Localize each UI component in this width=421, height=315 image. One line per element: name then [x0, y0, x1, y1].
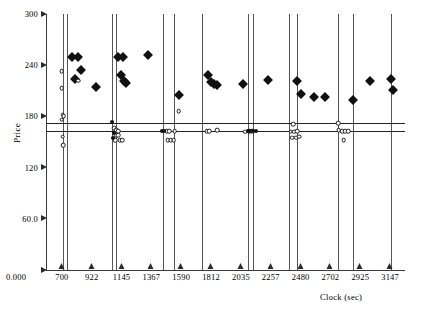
x-tick-label-1145: 1145: [113, 272, 131, 282]
data-point-series-1: [76, 78, 81, 83]
data-point-series-0: [174, 90, 184, 100]
y-axis-tick-mark: [41, 164, 47, 170]
x-axis-tick-mark: [148, 263, 154, 269]
x-axis-tick-mark: [267, 263, 273, 269]
data-point-series-1: [215, 128, 220, 133]
x-axis-title: Clock (sec): [320, 292, 362, 302]
x-tick-label-1590: 1590: [172, 272, 190, 282]
data-point-series-0: [238, 79, 248, 89]
y-axis-tick-mark: [41, 62, 47, 68]
data-point-series-2: [112, 131, 116, 135]
x-axis-tick-mark: [118, 263, 124, 269]
y-tick-label-180: 180: [25, 111, 38, 121]
data-point-series-1: [60, 135, 65, 140]
vertical-event-line: [248, 14, 249, 270]
x-tick-label-2480: 2480: [292, 272, 310, 282]
x-tick-label-2925: 2925: [351, 272, 369, 282]
data-point-series-0: [292, 76, 302, 86]
x-axis-tick-mark: [387, 263, 393, 269]
data-point-series-0: [348, 95, 358, 105]
data-point-series-0: [388, 85, 398, 95]
vertical-event-line: [63, 14, 64, 270]
x-tick-label-700: 700: [55, 272, 68, 282]
y-axis-tick-mark: [41, 215, 47, 221]
vertical-event-line: [353, 14, 354, 270]
data-point-series-2: [162, 129, 166, 133]
vertical-event-line: [163, 14, 164, 270]
data-point-series-1: [291, 122, 296, 127]
x-axis-tick-mark: [297, 263, 303, 269]
horizontal-reference-line: [47, 131, 405, 132]
x-tick-label-2257: 2257: [262, 272, 280, 282]
vertical-event-line: [253, 14, 254, 270]
x-tick-label-1367: 1367: [142, 272, 160, 282]
y-tick-label-60: 60.0: [22, 214, 38, 224]
data-point-series-1: [346, 129, 351, 134]
y-tick-label-0: 0.000: [6, 272, 26, 282]
data-point-series-1: [341, 138, 346, 143]
data-point-series-0: [365, 76, 375, 86]
data-point-series-0: [320, 92, 330, 102]
x-tick-label-1812: 1812: [202, 272, 220, 282]
data-point-series-0: [73, 52, 83, 62]
vertical-event-line: [67, 14, 68, 270]
data-point-series-1: [60, 86, 65, 91]
y-tick-label-120: 120: [25, 163, 38, 173]
data-point-series-1: [172, 129, 177, 134]
x-axis-tick-mark: [178, 263, 184, 269]
y-axis-title: Price: [12, 103, 22, 163]
y-axis-line: [46, 14, 47, 271]
data-point-series-1: [336, 121, 341, 126]
data-point-series-1: [60, 69, 65, 74]
data-point-series-0: [91, 82, 101, 92]
data-point-series-0: [309, 92, 319, 102]
y-axis-tick-mark: [41, 11, 47, 17]
x-axis-line: [46, 270, 405, 271]
x-axis-tick-mark: [88, 263, 94, 269]
data-point-series-1: [120, 138, 125, 143]
vertical-event-line: [391, 14, 392, 270]
x-tick-label-2702: 2702: [322, 272, 340, 282]
x-axis-tick-mark: [327, 263, 333, 269]
vertical-event-line: [202, 14, 203, 270]
data-point-series-1: [297, 135, 302, 140]
data-point-series-1: [176, 109, 181, 114]
x-tick-label-2035: 2035: [232, 272, 250, 282]
data-point-series-2: [111, 136, 115, 140]
data-point-series-0: [143, 50, 153, 60]
data-point-series-1: [60, 118, 65, 123]
data-point-series-1: [207, 129, 212, 134]
data-point-series-1: [116, 133, 121, 138]
y-tick-label-240: 240: [25, 60, 38, 70]
vertical-event-line: [338, 14, 339, 270]
x-axis-tick-mark: [208, 263, 214, 269]
y-tick-label-300: 300: [25, 9, 38, 19]
data-point-series-2: [254, 129, 258, 133]
x-tick-label-922: 922: [85, 272, 98, 282]
price-clock-scatter-chart: 0.000 Price Clock (sec) 30024018012060.0…: [0, 0, 421, 315]
vertical-event-line: [297, 14, 298, 270]
vertical-event-line: [289, 14, 290, 270]
origin-arrow-icon: [41, 267, 47, 273]
x-axis-tick-mark: [58, 263, 64, 269]
data-point-series-2: [110, 120, 114, 124]
data-point-series-0: [386, 74, 396, 84]
data-point-series-1: [295, 129, 300, 134]
x-tick-label-3147: 3147: [381, 272, 399, 282]
x-axis-tick-mark: [237, 263, 243, 269]
data-point-series-1: [61, 143, 66, 148]
data-point-series-1: [172, 138, 177, 143]
x-axis-tick-mark: [357, 263, 363, 269]
y-axis-tick-mark: [41, 113, 47, 119]
horizontal-reference-line: [47, 123, 405, 124]
data-point-series-0: [76, 65, 86, 75]
data-point-series-0: [263, 75, 273, 85]
data-point-series-1: [167, 129, 172, 134]
